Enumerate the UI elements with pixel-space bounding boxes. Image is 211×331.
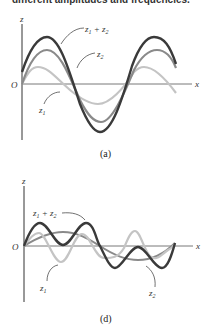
origin-label: O bbox=[12, 242, 19, 252]
pointer-z2 bbox=[77, 53, 95, 68]
wave-superposition-figure: z x O z1 + z2 z2 z1 (a) z x O z1 bbox=[0, 0, 211, 331]
x-axis-label: x bbox=[194, 79, 199, 89]
pointer-z1 bbox=[44, 92, 60, 104]
curve-z1-plus-z2 bbox=[24, 223, 175, 268]
label-z1: z1 bbox=[38, 105, 46, 116]
z-axis-label: z bbox=[19, 14, 24, 24]
figure-d-label: (d) bbox=[100, 313, 112, 325]
pointer-z1-plus-z2 bbox=[62, 213, 85, 220]
pointer-z1-plus-z2 bbox=[61, 28, 84, 44]
figure-a: z x O z1 + z2 z2 z1 (a) bbox=[11, 14, 199, 160]
x-axis-label: x bbox=[195, 241, 200, 251]
z-axis-label: z bbox=[21, 176, 26, 186]
label-z1: z1 bbox=[39, 283, 47, 294]
pointer-z1 bbox=[47, 265, 58, 281]
figure-a-label: (a) bbox=[100, 148, 111, 160]
label-z2: z2 bbox=[148, 288, 156, 299]
curve-z1 bbox=[22, 67, 176, 104]
label-z1-plus-z2: z1 + z2 bbox=[84, 24, 109, 35]
label-z1-plus-z2: z1 + z2 bbox=[32, 208, 57, 219]
pointer-z2 bbox=[146, 266, 155, 287]
figure-d: z x O z1 + z2 z1 z2 (d) bbox=[12, 176, 200, 325]
origin-label: O bbox=[11, 80, 18, 90]
label-z2: z2 bbox=[96, 49, 104, 60]
